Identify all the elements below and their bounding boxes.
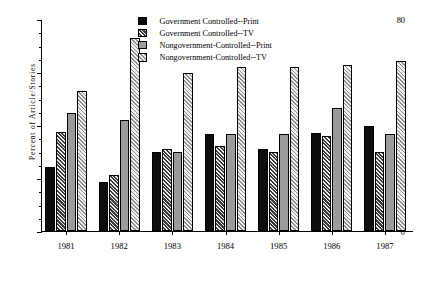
y-axis-minor-tick bbox=[39, 139, 42, 140]
y-axis-title: Percent of Article/Stories bbox=[28, 32, 37, 192]
bar bbox=[162, 149, 172, 231]
bar bbox=[45, 167, 55, 231]
legend-item-label: Government Controlled--TV bbox=[160, 29, 254, 38]
x-axis-tick-label: 1981 bbox=[57, 241, 74, 251]
x-axis-tick bbox=[119, 231, 120, 235]
legend-item-label: Nongovernment-Controlled--TV bbox=[160, 53, 267, 62]
y-axis-minor-tick bbox=[39, 113, 42, 114]
y-axis-minor-tick bbox=[39, 60, 42, 61]
y-axis-tick-label: 80 bbox=[397, 16, 405, 25]
bar bbox=[99, 182, 109, 231]
bar bbox=[311, 133, 321, 231]
x-axis-tick bbox=[332, 231, 333, 235]
bar bbox=[120, 120, 130, 231]
legend-item: Nongovernment-Controlled--TV bbox=[138, 51, 272, 63]
legend-swatch-icon bbox=[138, 29, 147, 38]
x-axis-tick-label: 1987 bbox=[376, 241, 393, 251]
bar bbox=[56, 132, 66, 231]
bar bbox=[396, 61, 406, 231]
bar bbox=[269, 152, 279, 232]
x-axis-tick bbox=[66, 231, 67, 235]
y-axis-minor-tick bbox=[39, 192, 42, 193]
bar bbox=[77, 91, 87, 231]
y-axis-major-tick bbox=[37, 126, 42, 127]
bar bbox=[258, 149, 268, 231]
y-axis-minor-tick bbox=[39, 166, 42, 167]
legend-item: Nongovernment-Controlled--Print bbox=[138, 39, 272, 51]
y-axis-minor-tick bbox=[39, 86, 42, 87]
bar bbox=[215, 146, 225, 231]
legend-swatch-icon bbox=[138, 41, 147, 50]
x-axis-tick-label: 1984 bbox=[217, 241, 234, 251]
y-axis-major-tick bbox=[37, 20, 42, 21]
y-axis-minor-tick bbox=[39, 153, 42, 154]
bar-chart: Percent of Article/Stories 020406080 198… bbox=[0, 0, 421, 281]
bar bbox=[109, 175, 119, 231]
x-axis-tick bbox=[385, 231, 386, 235]
y-axis-minor-tick bbox=[39, 206, 42, 207]
x-axis-tick bbox=[226, 231, 227, 235]
x-axis-tick bbox=[279, 231, 280, 235]
bar bbox=[290, 67, 300, 231]
y-axis-major-tick bbox=[37, 232, 42, 233]
y-axis-major-tick bbox=[37, 73, 42, 74]
y-axis-major-tick bbox=[37, 179, 42, 180]
legend-item-label: Nongovernment-Controlled--Print bbox=[160, 41, 272, 50]
x-axis-tick bbox=[172, 231, 173, 235]
bar bbox=[279, 134, 289, 231]
legend-swatch-icon bbox=[138, 53, 147, 62]
bar bbox=[385, 134, 395, 231]
bar bbox=[343, 65, 353, 231]
legend-swatch-icon bbox=[138, 17, 147, 26]
y-axis-minor-tick bbox=[39, 219, 42, 220]
x-axis-tick-label: 1983 bbox=[164, 241, 181, 251]
bar bbox=[332, 108, 342, 231]
bar bbox=[67, 113, 77, 231]
y-axis-minor-tick bbox=[39, 100, 42, 101]
bar bbox=[237, 67, 247, 231]
bar bbox=[173, 152, 183, 232]
bar bbox=[205, 134, 215, 231]
bar bbox=[183, 73, 193, 231]
legend: Government Controlled--PrintGovernment C… bbox=[138, 15, 272, 63]
y-axis-minor-tick bbox=[39, 47, 42, 48]
x-axis-tick-label: 1985 bbox=[270, 241, 287, 251]
bar bbox=[130, 38, 140, 231]
bar bbox=[375, 152, 385, 232]
legend-item: Government Controlled--TV bbox=[138, 27, 272, 39]
legend-item-label: Government Controlled--Print bbox=[160, 17, 259, 26]
bar bbox=[226, 134, 236, 231]
bar bbox=[152, 152, 162, 232]
x-axis-tick-label: 1986 bbox=[323, 241, 340, 251]
bar bbox=[364, 126, 374, 231]
bar bbox=[322, 136, 332, 231]
x-axis-tick-label: 1982 bbox=[111, 241, 128, 251]
y-axis-minor-tick bbox=[39, 33, 42, 34]
legend-item: Government Controlled--Print bbox=[138, 15, 272, 27]
